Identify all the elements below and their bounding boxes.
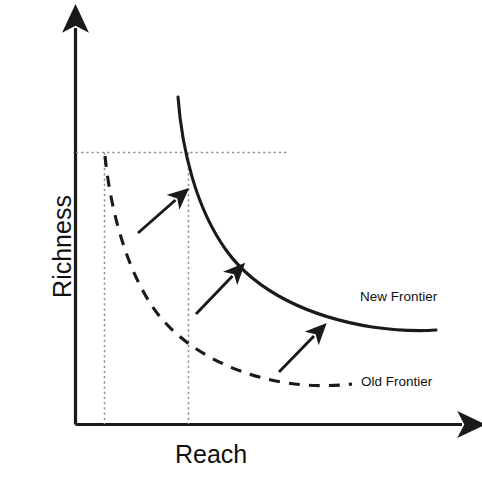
old-frontier-curve-group [105,156,352,386]
new-frontier-label: New Frontier [360,289,437,304]
old-frontier-curve [105,156,352,386]
shift-arrow-upper [138,200,176,233]
frontier-chart-figure: Richness Reach New Frontier Old Frontier [0,0,482,486]
x-axis-title: Reach [175,440,247,469]
shift-arrows-group [138,200,314,372]
old-frontier-label: Old Frontier [361,374,432,389]
guide-lines-group [76,153,289,425]
y-axis-title: Richness [48,167,77,327]
axes-group [76,28,463,425]
shift-arrow-middle [196,276,233,314]
shift-arrow-lower [279,336,314,372]
